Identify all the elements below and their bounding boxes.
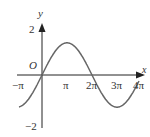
x-axis-label: x xyxy=(142,65,146,75)
plot xyxy=(0,0,150,137)
x-tick-neg-pi: −π xyxy=(12,80,24,91)
x-tick-4pi: 4π xyxy=(133,80,144,91)
y-axis-label: y xyxy=(38,8,43,19)
x-tick-pi: π xyxy=(63,80,69,91)
origin-label: O xyxy=(29,60,37,71)
y-tick-neg2: −2 xyxy=(25,121,37,132)
y-axis-arrow-icon xyxy=(39,23,46,32)
x-tick-3pi: 3π xyxy=(111,80,122,91)
x-tick-2pi: 2π xyxy=(86,80,97,91)
y-tick-2: 2 xyxy=(29,24,35,35)
